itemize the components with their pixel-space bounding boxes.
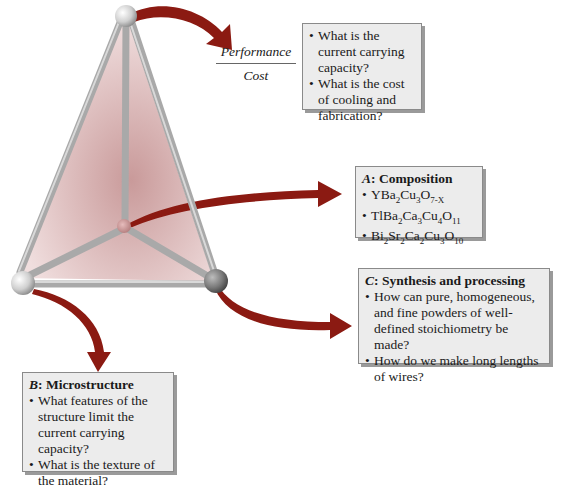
- formula-list: YBa2Cu3O7-XTlBa2Ca3Cu4O11Bi2Sr2Ca2Cu3O10: [362, 187, 475, 249]
- rod-back: [125, 20, 126, 222]
- vertex-microstructure: [11, 271, 35, 295]
- question-item: What is the current carrying capacity?: [309, 28, 414, 76]
- microstructure-title: B: Microstructure: [29, 377, 166, 393]
- tetrahedron-face: [17, 15, 214, 281]
- vertex-performance: [115, 5, 137, 27]
- performance-cost-ratio: Performance Cost: [216, 44, 296, 84]
- composition-box: A: Composition YBa2Cu3O7-XTlBa2Ca3Cu4O11…: [355, 166, 483, 238]
- formula-item: TlBa2Ca3Cu4O11: [362, 208, 475, 229]
- question-item: How can pure, homogeneous, and fine powd…: [365, 289, 542, 353]
- synthesis-box: C: Synthesis and processing How can pure…: [358, 268, 550, 364]
- question-item: What is the cost of cooling and fabricat…: [309, 76, 414, 124]
- question-item: What is the texture of the material?: [29, 457, 166, 488]
- performance-questions-box: What is the current carrying capacity? W…: [302, 23, 422, 110]
- formula-item: Bi2Sr2Ca2Cu3O10: [362, 228, 475, 249]
- arrow-to-synthesis-icon: [215, 285, 352, 339]
- arrow-to-microstructure-icon: [32, 289, 111, 372]
- question-item: How do we make long lengths of wires?: [365, 353, 542, 385]
- ratio-denominator: Cost: [216, 64, 296, 84]
- formula-item: YBa2Cu3O7-X: [362, 187, 475, 208]
- microstructure-box: B: Microstructure What features of the s…: [22, 372, 174, 472]
- ratio-numerator: Performance: [216, 44, 296, 64]
- vertex-synthesis: [204, 269, 228, 293]
- vertex-composition: [117, 219, 131, 233]
- synthesis-title: C: Synthesis and processing: [365, 273, 542, 289]
- question-item: What features of the structure limit the…: [29, 393, 166, 457]
- composition-title: A: Composition: [362, 171, 475, 187]
